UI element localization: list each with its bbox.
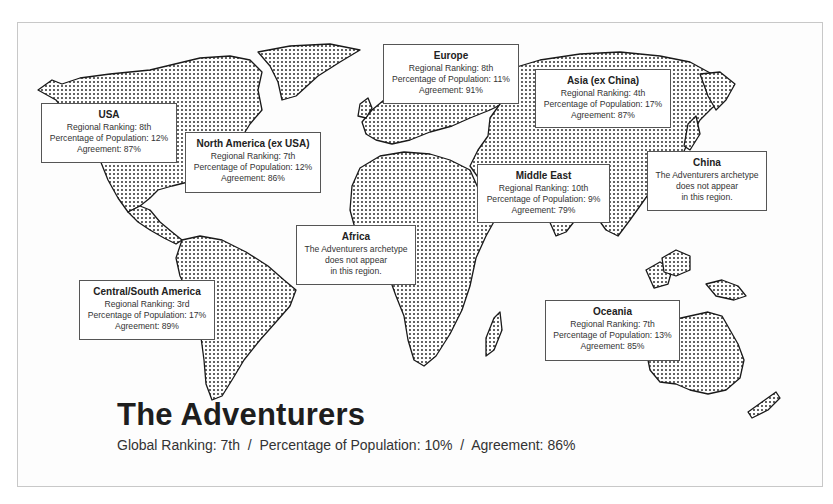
agreement: Agreement: 87% <box>540 110 666 121</box>
region-card-europe: Europe Regional Ranking: 8th Percentage … <box>383 44 519 104</box>
region-name: Africa <box>301 230 411 243</box>
region-card-usa: USA Regional Ranking: 8th Percentage of … <box>41 103 177 163</box>
regional-ranking: Regional Ranking: 8th <box>46 122 172 133</box>
agreement: Agreement: 87% <box>46 144 172 155</box>
agreement: Agreement: 79% <box>482 205 605 216</box>
region-note-line: The Adventurers archetype <box>652 170 762 181</box>
region-name: North America (ex USA) <box>190 137 316 150</box>
regional-ranking: Regional Ranking: 4th <box>540 88 666 99</box>
region-card-central-south-america: Central/South America Regional Ranking: … <box>79 280 215 340</box>
region-name: Central/South America <box>84 285 210 298</box>
papua-landmass <box>706 280 746 300</box>
population-percentage: Percentage of Population: 17% <box>540 99 666 110</box>
population-percentage: Percentage of Population: 12% <box>46 133 172 144</box>
central-america-landmass <box>128 206 182 244</box>
population-percentage: Percentage of Population: 9% <box>482 194 605 205</box>
figure-summary: Global Ranking: 7th / Percentage of Popu… <box>117 436 575 454</box>
regional-ranking: Regional Ranking: 3rd <box>84 299 210 310</box>
global-ranking: Global Ranking: 7th <box>117 437 240 453</box>
region-note-line: in this region. <box>652 192 762 203</box>
agreement: Agreement: 86% <box>190 173 316 184</box>
agreement: Agreement: 89% <box>84 321 210 332</box>
regional-ranking: Regional Ranking: 10th <box>482 183 605 194</box>
regional-ranking: Regional Ranking: 8th <box>388 63 514 74</box>
separator: / <box>240 437 259 453</box>
population-percentage: Percentage of Population: 17% <box>84 310 210 321</box>
region-name: Asia (ex China) <box>540 74 666 87</box>
population-percentage: Percentage of Population: 12% <box>190 162 316 173</box>
regional-ranking: Regional Ranking: 7th <box>550 319 675 330</box>
region-card-asia: Asia (ex China) Regional Ranking: 4th Pe… <box>535 69 671 128</box>
separator: / <box>452 437 471 453</box>
population-percentage: Percentage of Population: 13% <box>550 330 675 341</box>
region-card-north-america: North America (ex USA) Regional Ranking:… <box>185 132 321 193</box>
region-card-middle-east: Middle East Regional Ranking: 10th Perce… <box>477 164 610 223</box>
region-note-line: in this region. <box>301 266 411 277</box>
borneo-landmass <box>662 250 690 276</box>
greenland-landmass <box>258 44 360 100</box>
figure-title: The Adventurers <box>117 398 365 432</box>
region-name: Middle East <box>482 169 605 182</box>
region-note-line: does not appear <box>652 181 762 192</box>
region-name: China <box>652 156 762 169</box>
agreement: Agreement: 85% <box>550 341 675 352</box>
agreement: Agreement: 91% <box>388 85 514 96</box>
region-card-africa: Africa The Adventurers archetype does no… <box>296 225 416 285</box>
region-note-line: does not appear <box>301 255 411 266</box>
population-percentage: Percentage of Population: 11% <box>388 74 514 85</box>
global-agreement: Agreement: 86% <box>471 437 575 453</box>
region-card-oceania: Oceania Regional Ranking: 7th Percentage… <box>545 300 680 361</box>
region-name: Oceania <box>550 305 675 318</box>
madagascar-landmass <box>486 312 502 356</box>
region-note-line: The Adventurers archetype <box>301 244 411 255</box>
new-zealand-landmass <box>748 392 780 418</box>
region-name: USA <box>46 108 172 121</box>
global-percentage: Percentage of Population: 10% <box>259 437 452 453</box>
region-name: Europe <box>388 49 514 62</box>
regional-ranking: Regional Ranking: 7th <box>190 151 316 162</box>
region-card-china: China The Adventurers archetype does not… <box>647 151 767 211</box>
